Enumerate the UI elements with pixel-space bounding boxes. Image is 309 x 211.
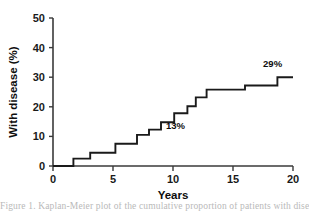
x-tick-label: 0: [50, 173, 56, 185]
chart-annotations: 13%29%: [166, 58, 283, 131]
step-chart: 01020304050 05101520 13%29% Years With d…: [0, 0, 309, 211]
y-tick-label: 0: [39, 160, 45, 172]
figure-caption: Figure 1. Kaplan-Meier plot of the cumul…: [0, 202, 309, 211]
y-tick-label: 20: [33, 101, 45, 113]
y-tick-label: 40: [33, 42, 45, 54]
y-tick-label: 10: [33, 130, 45, 142]
x-axis-title: Years: [158, 189, 189, 201]
x-tick-label: 15: [227, 173, 239, 185]
x-axis-ticks: 05101520: [50, 166, 299, 185]
y-axis-title: With disease (%): [7, 46, 19, 137]
x-tick-label: 20: [287, 173, 299, 185]
figure-caption-text: Figure 1. Kaplan-Meier plot of the cumul…: [0, 202, 309, 211]
annotation-29-percent: 29%: [263, 58, 283, 69]
annotation-13-percent: 13%: [166, 120, 186, 131]
x-tick-label: 10: [167, 173, 179, 185]
chart-figure: 01020304050 05101520 13%29% Years With d…: [0, 0, 309, 211]
y-axis-ticks: 01020304050: [33, 12, 53, 172]
x-tick-label: 5: [110, 173, 116, 185]
y-tick-label: 50: [33, 12, 45, 24]
y-tick-label: 30: [33, 71, 45, 83]
